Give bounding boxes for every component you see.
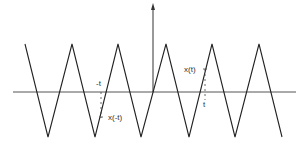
t-label: t xyxy=(203,100,206,109)
neg-t-value-label: x(-t) xyxy=(108,113,123,122)
triangle-wave-diagram: -t x(-t) x(t) t xyxy=(0,0,306,149)
t-value-label: x(t) xyxy=(184,65,196,74)
arrow-up-icon xyxy=(151,3,155,10)
neg-t-label: -t xyxy=(96,79,102,88)
